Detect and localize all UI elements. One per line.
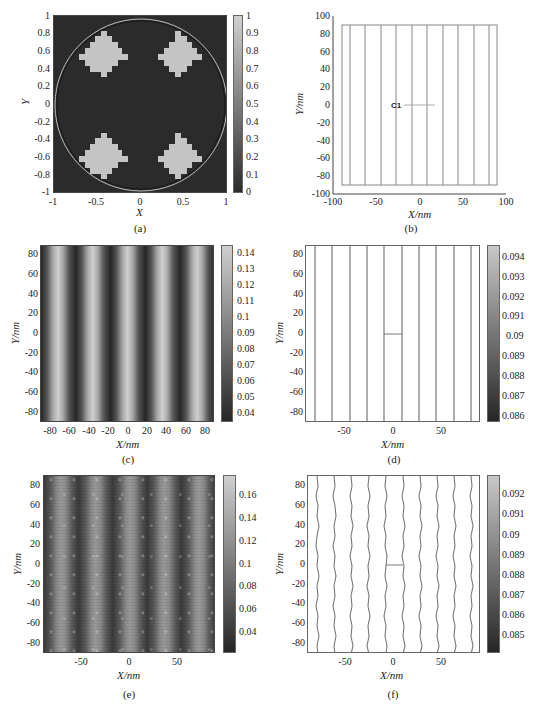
y-tick: 60 — [30, 500, 40, 510]
x-axis-label: X/nm — [381, 438, 404, 450]
y-tick: -20 — [317, 118, 330, 128]
cbar-tick: 0.07 — [237, 360, 255, 370]
y-tick: -40 — [290, 367, 303, 377]
colorbar-d — [487, 245, 500, 422]
y-axis-label: Y/nm — [9, 322, 21, 345]
y-tick: 0 — [325, 100, 330, 110]
y-tick: 40 — [295, 520, 305, 530]
x-tick: -20 — [101, 426, 114, 436]
x-tick: -50 — [337, 426, 350, 436]
line-plot-b — [270, 0, 535, 235]
cbar-tick: 0.09 — [502, 530, 520, 540]
annotation-c1: C1 — [391, 101, 401, 111]
y-tick: 40 — [320, 64, 330, 74]
x-tick: -60 — [62, 426, 75, 436]
cbar-tick: 0.09 — [506, 331, 524, 341]
y-tick: 0 — [35, 559, 40, 569]
cbar-tick: 0.04 — [237, 408, 255, 418]
cbar-tick: 0.5 — [246, 99, 259, 109]
y-axis-label: Y/nm — [273, 322, 285, 345]
y-tick: 0 — [33, 328, 38, 338]
y-tick: -20 — [292, 579, 305, 589]
caption-e: (e) — [123, 688, 135, 700]
cbar-tick: 0.091 — [502, 509, 525, 519]
x-tick: 40 — [161, 426, 171, 436]
colorbar-c — [221, 245, 233, 422]
panel-f: 0.092 0.091 0.09 0.089 0.088 0.087 0.086… — [270, 465, 535, 705]
cbar-tick: 0.11 — [237, 296, 254, 306]
cbar-tick: 0.09 — [237, 328, 255, 338]
x-tick: 80 — [200, 426, 210, 436]
x-tick: -100 — [324, 197, 342, 207]
caption-f: (f) — [388, 688, 399, 700]
y-tick: -40 — [25, 367, 38, 377]
cbar-tick: 0.087 — [502, 590, 525, 600]
y-tick: -60 — [27, 618, 40, 628]
panel-e: 0.16 0.14 0.12 0.1 0.08 0.06 0.04 80 60 … — [0, 465, 270, 705]
y-tick: 80 — [295, 480, 305, 490]
cbar-tick: 0.06 — [239, 604, 257, 614]
y-tick: 80 — [30, 480, 40, 490]
cbar-tick: 0.088 — [502, 570, 525, 580]
x-tick: -0.5 — [88, 197, 104, 207]
y-tick: -80 — [292, 638, 305, 648]
y-tick: 80 — [28, 249, 38, 259]
cbar-tick: 0.08 — [237, 344, 255, 354]
x-tick: 0 — [418, 197, 423, 207]
x-axis-label: X/nm — [380, 669, 403, 681]
y-tick: -0.6 — [34, 152, 50, 162]
y-tick: -0.4 — [34, 134, 50, 144]
cbar-tick: 0.9 — [246, 28, 259, 38]
y-tick: 40 — [30, 520, 40, 530]
cbar-tick: 0.1 — [246, 170, 259, 180]
y-tick: 80 — [320, 29, 330, 39]
y-axis-label: Y/nm — [273, 553, 285, 576]
cbar-tick: 0.14 — [237, 248, 255, 258]
y-tick: -20 — [25, 348, 38, 358]
y-axis-label: Y/nm — [293, 93, 305, 116]
y-tick: 20 — [28, 308, 38, 318]
cbar-tick: 0 — [246, 187, 251, 197]
heatmap-a — [54, 16, 227, 193]
x-tick: -50 — [74, 657, 87, 667]
colorbar-a — [233, 15, 243, 193]
cbar-tick: 0.13 — [237, 264, 255, 274]
y-tick: 0 — [298, 328, 303, 338]
cbar-tick: 0.086 — [502, 610, 525, 620]
cbar-tick: 0.3 — [246, 134, 259, 144]
x-axis-label: X/nm — [408, 208, 431, 220]
y-tick: 0.4 — [38, 64, 51, 74]
y-tick: 60 — [320, 47, 330, 57]
cbar-tick: 0.1 — [237, 312, 250, 322]
colorbar-e — [223, 475, 236, 653]
panel-c: 0.14 0.13 0.12 0.11 0.1 0.09 0.08 0.07 0… — [0, 235, 270, 465]
y-tick: -0.8 — [34, 170, 50, 180]
cbar-tick: 0.091 — [502, 311, 525, 321]
cbar-tick: 0.05 — [237, 392, 255, 402]
x-tick: -40 — [82, 426, 95, 436]
heatmap-e — [43, 475, 215, 653]
y-tick: -40 — [27, 598, 40, 608]
x-axis-label: X — [136, 206, 143, 218]
x-tick: -50 — [369, 197, 382, 207]
cbar-tick: 0.14 — [239, 513, 257, 523]
y-tick: 20 — [30, 539, 40, 549]
y-tick: 80 — [293, 249, 303, 259]
x-tick: 0 — [391, 657, 396, 667]
caption-c: (c) — [122, 453, 134, 465]
x-tick: 60 — [181, 426, 191, 436]
y-tick: 60 — [293, 269, 303, 279]
heatmap-c — [40, 245, 214, 422]
x-tick: 0 — [127, 657, 132, 667]
cbar-tick: 1 — [246, 11, 251, 21]
y-tick: 40 — [293, 289, 303, 299]
panel-b: C1 100 80 60 40 20 0 -20 -40 -60 -80 -10… — [270, 0, 535, 235]
cbar-tick: 0.04 — [239, 627, 257, 637]
x-tick: 100 — [499, 197, 514, 207]
cbar-tick: 0.085 — [502, 630, 525, 640]
x-tick: -80 — [43, 426, 56, 436]
contour-plot-f — [307, 475, 480, 653]
y-tick: -60 — [292, 618, 305, 628]
y-tick: -0.2 — [34, 117, 50, 127]
cbar-tick: 0.087 — [502, 391, 525, 401]
